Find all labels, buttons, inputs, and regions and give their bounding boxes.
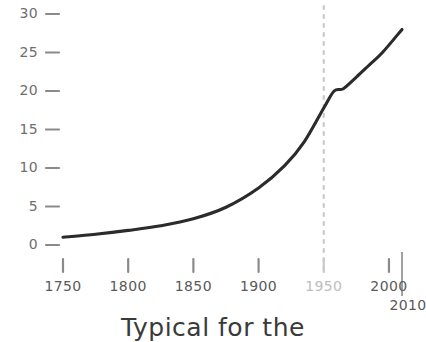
y-axis-label: 30 — [4, 5, 38, 21]
x-axis-tick-marks — [63, 259, 389, 272]
x-axis-label: 1950 — [296, 278, 352, 294]
x-axis-label: 1900 — [231, 278, 287, 294]
y-axis-label: 10 — [4, 159, 38, 175]
x-axis-label: 1850 — [165, 278, 221, 294]
y-axis-label: 0 — [4, 236, 38, 252]
y-axis-label: 25 — [4, 44, 38, 60]
y-axis-label: 20 — [4, 82, 38, 98]
x-axis-label: 1800 — [100, 278, 156, 294]
x-axis-end-label: 2010 — [380, 297, 426, 313]
y-axis-label: 15 — [4, 121, 38, 137]
x-axis-label: 1750 — [35, 278, 91, 294]
chart-caption: Typical for the — [0, 313, 426, 342]
y-axis-label: 5 — [4, 198, 38, 214]
x-axis-label: 2000 — [361, 278, 417, 294]
growth-curve-line — [63, 29, 402, 237]
y-axis-tick-marks — [46, 14, 59, 245]
